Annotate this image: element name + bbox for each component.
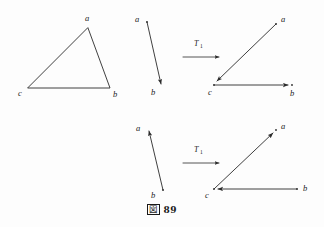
figure-caption-glyph: 図 [147, 204, 161, 215]
bottom-result-point-a [275, 129, 277, 131]
top-result-label-b: b [290, 88, 294, 98]
top-result-point-c [213, 84, 215, 86]
triangle-abc-outline [28, 28, 110, 88]
figure-89-diagram: a b c a b T 1 a b c [0, 0, 324, 227]
bottom-source-label-b: b [151, 190, 155, 200]
transform-subscript-1-top: 1 [200, 43, 203, 49]
transform-label-T-bottom: T [194, 145, 199, 154]
bottom-result-vector-c-to-a [214, 133, 273, 189]
bottom-source-point-b [162, 189, 164, 191]
triangle-abc-panel: a b c [18, 13, 117, 99]
bottom-source-vector-panel: a b [136, 123, 164, 200]
bottom-source-label-a: a [136, 123, 140, 133]
transform-arrow-bottom-group: T 1 [183, 145, 219, 163]
triangle-vertex-label-c: c [18, 88, 22, 98]
figure-page: a b c a b T 1 a b c [0, 0, 324, 227]
triangle-vertex-label-a: a [85, 13, 89, 23]
top-result-label-a: a [281, 14, 285, 24]
top-result-panel: a b c [208, 14, 294, 98]
top-source-vector-ab [147, 22, 161, 84]
bottom-result-point-b [296, 188, 298, 190]
top-result-point-b [291, 84, 293, 86]
triangle-vertex-label-b: b [113, 89, 117, 99]
top-result-point-a [275, 23, 277, 25]
bottom-result-label-a: a [281, 121, 285, 131]
transform-subscript-1-bottom: 1 [200, 149, 203, 155]
transform-label-T-top: T [194, 39, 199, 48]
transform-arrow-top-group: T 1 [183, 39, 219, 57]
top-source-vector-panel: a b [135, 14, 161, 97]
figure-caption-number: 89 [163, 205, 177, 215]
top-source-label-b: b [151, 87, 155, 97]
top-result-vector-a-to-c [217, 24, 276, 81]
bottom-result-label-b: b [303, 183, 307, 193]
bottom-result-panel: a b c [205, 121, 307, 200]
bottom-result-point-c [213, 188, 215, 190]
top-source-point-a [146, 21, 148, 23]
top-source-label-a: a [135, 14, 139, 24]
top-result-label-c: c [208, 87, 212, 97]
bottom-result-label-c: c [205, 190, 209, 200]
bottom-source-vector-ba [149, 131, 163, 190]
figure-caption: 図89 [0, 204, 324, 215]
